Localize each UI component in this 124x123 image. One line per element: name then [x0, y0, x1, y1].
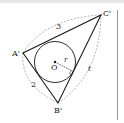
- edge-label-ab: 2: [31, 81, 36, 89]
- vertical-divider: [117, 10, 118, 120]
- radius-label: r: [64, 57, 67, 64]
- edge-label-ac: 3: [56, 23, 61, 31]
- vertex-label-c: C': [103, 10, 111, 18]
- vertex-label-b: B': [54, 107, 62, 115]
- geometry-diagram: [0, 0, 124, 123]
- edge-label-bc: t: [88, 66, 91, 73]
- vertex-label-a: A': [12, 50, 20, 58]
- center-label: O: [51, 64, 58, 72]
